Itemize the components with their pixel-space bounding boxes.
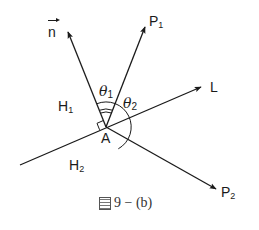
h2-subscript: 2 (79, 164, 84, 174)
normal-vector-letter: n (48, 24, 56, 40)
line-l-label: L (210, 80, 218, 94)
h2-letter: H (69, 157, 79, 173)
h1-label: H1 (58, 99, 73, 115)
figure-caption-text: 9 − (b) (114, 195, 152, 211)
h1-letter: H (58, 98, 68, 114)
theta1-subscript: 1 (107, 89, 113, 100)
line-l-letter: L (210, 79, 218, 95)
p2-label: P2 (221, 185, 235, 201)
p1-letter: P (149, 13, 158, 29)
p1-label: P1 (149, 14, 163, 30)
theta1-arc-inner (100, 112, 111, 113)
theta1-arc-outer (99, 109, 112, 110)
theta2-label: θ2 (123, 96, 137, 112)
p1-subscript: 1 (158, 20, 163, 30)
theta1-label: θ1 (99, 84, 113, 100)
figure-glyph-icon (99, 197, 111, 210)
normal-vector-label: n (48, 24, 56, 40)
right-angle-marker (97, 121, 103, 130)
p2-subscript: 2 (230, 191, 235, 201)
figure-caption: 9 − (b) (99, 195, 152, 211)
point-a-label: A (101, 131, 110, 145)
p2-letter: P (221, 184, 230, 200)
point-a-letter: A (101, 130, 110, 146)
ray-ap2 (106, 127, 216, 189)
ray-ap1 (106, 27, 145, 127)
h2-label: H2 (69, 158, 84, 174)
theta2-subscript: 2 (131, 101, 137, 112)
h1-subscript: 1 (68, 105, 73, 115)
vector-arrow-icon (48, 20, 58, 21)
